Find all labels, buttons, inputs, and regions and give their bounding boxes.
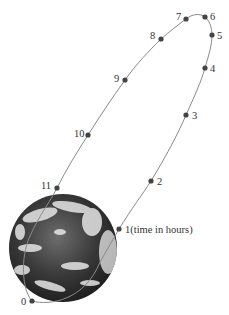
orbit-point-label: 8 [150, 30, 155, 41]
orbit-point-label: 6 [210, 11, 215, 22]
orbit-point-label: 0 [21, 296, 26, 307]
orbit-point-marker [29, 298, 34, 303]
orbit-point-marker [54, 185, 59, 190]
orbit-point-marker [183, 16, 188, 21]
orbit-point-marker [202, 65, 207, 70]
orbit-point-marker [209, 32, 214, 37]
orbit-point-marker [158, 36, 163, 41]
orbit-point-marker [202, 14, 207, 19]
orbit-point-label: 5 [217, 30, 222, 41]
orbit-point-marker [116, 226, 121, 231]
orbit-point-marker [148, 178, 153, 183]
orbit-point-label: 9 [114, 73, 119, 84]
orbit-point-label: 7 [176, 11, 181, 22]
orbit-point-marker [183, 112, 188, 117]
orbit-diagram: 01(time in hours)234567891011 [0, 0, 229, 315]
orbit-point-label: 11 [41, 180, 51, 191]
orbit-point-label: 10 [74, 128, 85, 139]
orbit-point-marker [122, 77, 127, 82]
orbit-point-marker [85, 132, 90, 137]
orbit-point-label: 2 [157, 176, 162, 187]
orbit-point-label: 1(time in hours) [125, 224, 193, 236]
orbit-point-label: 4 [210, 63, 216, 74]
orbit-point-label: 3 [192, 110, 197, 121]
